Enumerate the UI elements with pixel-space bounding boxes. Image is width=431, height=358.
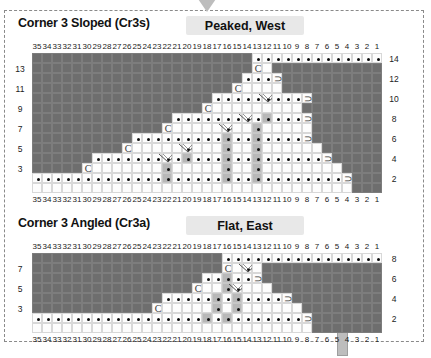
- cr3s-cell[interactable]: [142, 173, 152, 183]
- cr3s-cell[interactable]: [272, 83, 282, 93]
- cr3s-cell[interactable]: [282, 133, 292, 143]
- cr3a-cell[interactable]: [132, 293, 142, 303]
- cr3a-cell[interactable]: [42, 263, 52, 273]
- cr3s-cell[interactable]: [192, 163, 202, 173]
- cr3a-cell[interactable]: [292, 323, 302, 333]
- cr3s-cell[interactable]: [352, 103, 362, 113]
- cr3a-cell[interactable]: [302, 303, 312, 313]
- cr3s-cell[interactable]: [242, 73, 252, 83]
- cr3a-cell[interactable]: [242, 253, 252, 263]
- cr3a-cell[interactable]: [42, 253, 52, 263]
- cr3a-cell[interactable]: [292, 273, 302, 283]
- cr3s-cell[interactable]: [202, 163, 212, 173]
- cr3s-cell[interactable]: [312, 133, 322, 143]
- cr3s-cell[interactable]: [252, 133, 262, 143]
- cr3s-cell[interactable]: [242, 173, 252, 183]
- cr3s-cell[interactable]: [342, 153, 352, 163]
- cr3s-cell[interactable]: [352, 83, 362, 93]
- cr3s-cell[interactable]: [312, 73, 322, 83]
- cr3a-cell[interactable]: [172, 313, 182, 323]
- cr3a-cell[interactable]: [332, 323, 342, 333]
- cr3s-cell[interactable]: [92, 53, 102, 63]
- cr3a-cell[interactable]: [32, 293, 42, 303]
- cr3s-cell[interactable]: [242, 53, 252, 63]
- cr3s-cell[interactable]: [362, 143, 372, 153]
- cr3s-cell[interactable]: [142, 63, 152, 73]
- cr3s-cell[interactable]: [52, 153, 62, 163]
- cr3s-cell[interactable]: [72, 83, 82, 93]
- cr3s-cell[interactable]: [372, 133, 382, 143]
- cr3a-cell[interactable]: [312, 263, 322, 273]
- cr3s-cell[interactable]: [62, 63, 72, 73]
- cr3a-cell[interactable]: [242, 293, 252, 303]
- cr3s-cell[interactable]: [312, 183, 322, 193]
- cr3a-cell[interactable]: [52, 263, 62, 273]
- cr3s-cell[interactable]: [42, 113, 52, 123]
- cr3a-cell[interactable]: [212, 253, 222, 263]
- cr3s-cell[interactable]: [312, 63, 322, 73]
- cr3a-cell[interactable]: [232, 253, 242, 263]
- cr3a-cell[interactable]: [82, 253, 92, 263]
- cr3s-cell[interactable]: [172, 123, 182, 133]
- cr3s-cell[interactable]: [122, 103, 132, 113]
- cr3s-cell[interactable]: [232, 163, 242, 173]
- cr3a-cell[interactable]: [282, 323, 292, 333]
- cr3s-cell[interactable]: [32, 103, 42, 113]
- cr3s-cell[interactable]: [262, 103, 272, 113]
- cr3s-cell[interactable]: [312, 103, 322, 113]
- cr3a-cell[interactable]: [212, 323, 222, 333]
- cr3s-cell[interactable]: [222, 183, 232, 193]
- cr3a-cell[interactable]: [32, 283, 42, 293]
- cr3a-cell[interactable]: [122, 273, 132, 283]
- cr3s-cell[interactable]: [32, 183, 42, 193]
- cr3a-cell[interactable]: [302, 253, 312, 263]
- cr3a-cell[interactable]: [192, 293, 202, 303]
- cr3s-cell[interactable]: [332, 163, 342, 173]
- cr3s-cell[interactable]: [192, 133, 202, 143]
- cr3a-cell[interactable]: [112, 293, 122, 303]
- cr3a-cell[interactable]: [222, 313, 232, 323]
- cr3a-cell[interactable]: [42, 313, 52, 323]
- cr3a-cell[interactable]: [302, 323, 312, 333]
- cr3a-cell[interactable]: [372, 313, 382, 323]
- cr3a-cell[interactable]: [202, 293, 212, 303]
- cr3a-cell[interactable]: [92, 253, 102, 263]
- cr3s-cell[interactable]: [102, 163, 112, 173]
- cr3s-cell[interactable]: [332, 53, 342, 63]
- cr3s-cell[interactable]: [182, 183, 192, 193]
- cr3a-cell[interactable]: [202, 323, 212, 333]
- cr3s-cell[interactable]: [242, 123, 252, 133]
- cr3s-cell[interactable]: [92, 163, 102, 173]
- cr3s-cell[interactable]: [142, 113, 152, 123]
- cr3s-cell[interactable]: [212, 113, 222, 123]
- cr3a-cell[interactable]: [272, 253, 282, 263]
- cr3s-cell[interactable]: [212, 103, 222, 113]
- cr3a-cell[interactable]: [212, 263, 222, 273]
- cr3s-cell[interactable]: [152, 183, 162, 193]
- cr3s-cell[interactable]: [282, 83, 292, 93]
- cr3s-cell[interactable]: [112, 63, 122, 73]
- cr3a-cell[interactable]: [32, 313, 42, 323]
- cr3s-cell[interactable]: [82, 63, 92, 73]
- cr3s-cell[interactable]: [142, 153, 152, 163]
- cr3a-cell[interactable]: [132, 313, 142, 323]
- cr3s-cell[interactable]: [202, 133, 212, 143]
- cr3s-cell[interactable]: [262, 73, 272, 83]
- cr3a-cell[interactable]: [92, 273, 102, 283]
- cr3a-cell[interactable]: [122, 263, 132, 273]
- cr3s-cell[interactable]: [242, 103, 252, 113]
- cr3a-cell[interactable]: [82, 263, 92, 273]
- cr3s-cell[interactable]: [262, 63, 272, 73]
- cr3s-cell[interactable]: ⊃: [272, 73, 282, 83]
- cr3s-cell[interactable]: [362, 133, 372, 143]
- cr3s-cell[interactable]: [242, 163, 252, 173]
- cr3s-cell[interactable]: [352, 123, 362, 133]
- cr3a-cell[interactable]: [262, 303, 272, 313]
- cr3s-cell[interactable]: [72, 113, 82, 123]
- cr3s-cell[interactable]: [232, 123, 242, 133]
- cr3s-cell[interactable]: [62, 173, 72, 183]
- cr3a-cell[interactable]: [302, 263, 312, 273]
- cr3s-cell[interactable]: [172, 183, 182, 193]
- cr3s-cell[interactable]: [52, 73, 62, 83]
- cr3s-cell[interactable]: [372, 73, 382, 83]
